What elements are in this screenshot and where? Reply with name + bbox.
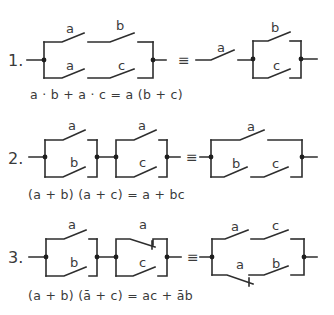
switch-label: c <box>118 58 125 73</box>
switch-label: c <box>272 218 279 233</box>
boolean-formula: a · b + a · c = a (b + c) <box>30 87 183 102</box>
junction-node <box>43 155 48 160</box>
switch-b <box>46 267 86 276</box>
switch-label: a <box>138 118 146 133</box>
switch-label: a <box>231 219 239 234</box>
equivalence-symbol: ≡ <box>187 249 199 265</box>
switch-a <box>196 50 234 60</box>
switch-b <box>249 266 288 286</box>
boolean-formula: (a + b) (ā + c) = ac + āb <box>28 288 193 303</box>
junction-node <box>210 255 215 260</box>
junction-node <box>42 58 47 63</box>
switch-a <box>212 230 248 239</box>
boolean-formula: (a + b) (a + c) = a + bc <box>28 187 185 202</box>
switch-c <box>251 167 288 177</box>
switch-a <box>45 130 85 140</box>
switch-c <box>88 69 134 78</box>
switch-label: a <box>247 119 255 134</box>
switch-label: b <box>272 256 280 271</box>
switch-label: c <box>273 58 280 73</box>
switch-label: a <box>66 58 74 73</box>
switch-label: b <box>271 20 279 35</box>
switch-c <box>251 230 288 239</box>
switch-label: a <box>139 217 147 232</box>
equivalence-symbol: ≡ <box>178 52 190 68</box>
switch-b <box>211 167 247 177</box>
junction-node <box>299 57 304 62</box>
diagram-number: 1. <box>8 51 23 70</box>
switch-a <box>46 230 86 239</box>
junction-node <box>114 255 119 260</box>
junction-node <box>114 155 119 160</box>
junction-node <box>300 155 305 160</box>
right-circuit: a c a b <box>200 218 317 286</box>
switch-label: a <box>68 217 76 232</box>
switch-label: b <box>70 155 78 170</box>
right-circuit: a b c <box>200 119 317 177</box>
left-circuit: a b a c <box>29 118 180 177</box>
switch-a-normally-closed <box>116 239 155 276</box>
switch-a <box>211 130 264 140</box>
junction-node <box>95 155 100 160</box>
junction-node <box>302 255 307 260</box>
junction-node <box>165 255 170 260</box>
diagram-3: 3. a b a c ≡ <box>8 217 317 303</box>
junction-node <box>209 155 214 160</box>
equivalence-symbol: ≡ <box>186 149 198 165</box>
left-circuit: a b a c <box>29 217 181 276</box>
diagram-number: 3. <box>8 248 23 267</box>
switch-c <box>116 167 156 177</box>
switch-label: a <box>68 118 76 133</box>
switch-label: b <box>232 156 240 171</box>
switch-a-bottom <box>44 69 84 78</box>
switch-label: a <box>217 40 225 55</box>
diagram-1: 1. a b a c ≡ a <box>8 18 317 102</box>
switch-label: a <box>236 257 244 272</box>
junction-node <box>251 57 256 62</box>
switch-label: a <box>66 21 74 36</box>
switch-label: b <box>116 18 124 33</box>
switch-label: c <box>139 155 146 170</box>
left-circuit: a b a c <box>27 18 166 78</box>
switch-b <box>88 33 134 42</box>
right-circuit: a b c <box>196 20 317 78</box>
switching-circuit-diagrams: 1. a b a c ≡ a <box>0 0 334 315</box>
switch-label: c <box>272 156 279 171</box>
junction-node <box>44 255 49 260</box>
switch-c <box>116 267 155 276</box>
switch-a-top <box>44 33 84 42</box>
input-wire <box>27 42 44 78</box>
diagram-number: 2. <box>8 149 23 168</box>
switch-label: b <box>70 255 78 270</box>
switch-b <box>45 167 85 177</box>
junction-node <box>165 155 170 160</box>
switch-a-normally-closed <box>212 275 253 284</box>
junction-node <box>95 255 100 260</box>
junction-node <box>151 58 156 63</box>
switch-label: c <box>139 255 146 270</box>
diagram-2: 2. a b a c ≡ <box>8 118 317 202</box>
switch-c <box>253 69 290 78</box>
